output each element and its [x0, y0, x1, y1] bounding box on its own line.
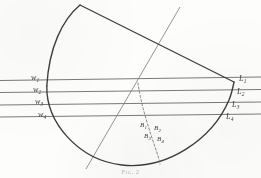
figure-caption: Fig. 2: [0, 168, 261, 175]
label-w2: w2: [33, 86, 41, 94]
label-B4: B4: [157, 136, 164, 143]
label-B3: B3: [144, 133, 151, 140]
label-w3: w3: [35, 98, 43, 106]
label-L2: L2: [237, 88, 244, 96]
label-L4: L4: [226, 113, 233, 121]
label-w1: w1: [31, 74, 39, 82]
label-B2: B2: [154, 125, 161, 132]
label-B1: B1: [140, 122, 147, 129]
label-L1: L1: [239, 75, 246, 83]
label-w4: w4: [38, 111, 46, 119]
outline-left-flank: [47, 5, 80, 86]
figure-container: w1 w2 w3 w4 L1 L2 L3 L4 B1 B2 B3 B4 Fig.…: [0, 0, 261, 178]
label-L3: L3: [232, 101, 239, 109]
horizontal-line-w1-L1: [0, 77, 261, 81]
outline-upper-chord: [80, 5, 234, 82]
